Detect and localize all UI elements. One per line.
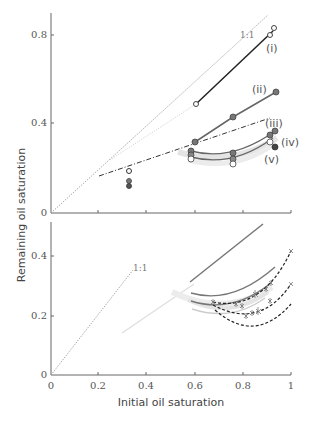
- xtick-0.2: 0.2: [90, 380, 106, 391]
- bottom-upper-line: [190, 224, 263, 282]
- series-v-label: (v): [264, 153, 279, 166]
- xtick-0: 0: [48, 380, 54, 391]
- xtick-0.6: 0.6: [187, 380, 203, 391]
- xtick-0.4: 0.4: [138, 380, 154, 391]
- top-panel: 0.8 0.4 0 1:1 (i) (ii): [31, 13, 299, 218]
- dashdot-fit-line: [99, 118, 270, 176]
- y-axis-label: Remaining oil saturation: [15, 148, 28, 282]
- saturation-figure: 0.8 0.4 0 1:1 (i) (ii): [0, 0, 311, 422]
- bottom-ratio-label: 1:1: [133, 263, 147, 273]
- xtick-1: 1: [288, 380, 294, 391]
- top-ratio-label: 1:1: [240, 30, 254, 40]
- xtick-0.8: 0.8: [235, 380, 251, 391]
- bottom-panel: 0.4 0.2 0 0 0.2 0.4 0.6 0.8 1 1:1: [31, 222, 294, 391]
- series-ii-label: (ii): [252, 83, 267, 96]
- bottom-ytick-0: 0: [41, 369, 47, 380]
- x-axis-label: Initial oil saturation: [118, 396, 224, 409]
- bottom-one-to-one-line: [51, 270, 133, 375]
- top-ytick-0.8: 0.8: [31, 29, 47, 40]
- series-iii-label: (iii): [265, 117, 283, 130]
- top-one-to-one-line: [51, 15, 268, 213]
- bottom-ytick-0.4: 0.4: [31, 250, 47, 261]
- top-ytick-0.4: 0.4: [31, 117, 47, 128]
- series-iv-label: (iv): [281, 136, 299, 149]
- series-i-label: (i): [266, 42, 278, 55]
- top-ytick-0: 0: [41, 207, 47, 218]
- bottom-ytick-0.2: 0.2: [31, 310, 47, 321]
